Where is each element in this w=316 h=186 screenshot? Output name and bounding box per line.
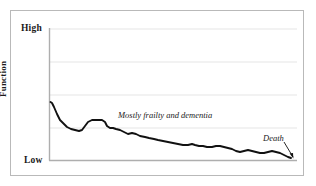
chart-plot-area [0, 0, 316, 186]
y-axis-low-label: Low [24, 155, 43, 165]
annotation-death-label: Death [263, 133, 284, 143]
annotation-trajectory-label: Mostly frailty and dementia [118, 110, 212, 120]
figure-container: High Low Function Mostly frailty and dem… [0, 0, 316, 186]
y-axis-high-label: High [21, 23, 42, 33]
y-axis-title: Function [0, 61, 8, 97]
